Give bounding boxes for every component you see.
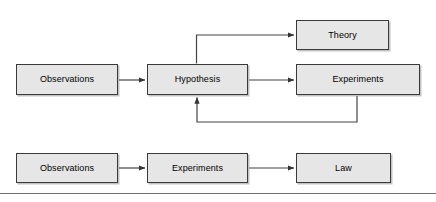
node-observations-bottom[interactable]: Observations [16, 153, 118, 183]
node-label-observations-top: Observations [40, 75, 94, 84]
node-label-hypothesis: Hypothesis [175, 75, 221, 84]
node-hypothesis[interactable]: Hypothesis [147, 64, 248, 95]
node-law[interactable]: Law [296, 153, 391, 183]
node-theory[interactable]: Theory [296, 20, 389, 50]
edge-experiments-to-hypothesis-feedback [197, 96, 357, 122]
node-label-experiments-bottom: Experiments [172, 164, 223, 173]
node-label-law: Law [335, 164, 352, 173]
node-experiments-bottom[interactable]: Experiments [147, 153, 248, 183]
node-label-theory: Theory [328, 31, 357, 40]
edge-hypothesis-to-theory [197, 35, 295, 64]
node-label-experiments-top: Experiments [332, 75, 383, 84]
footer-divider [0, 193, 436, 194]
diagram-canvas: Observations Hypothesis Theory Experimen… [0, 0, 436, 202]
node-label-observations-bottom: Observations [40, 164, 94, 173]
node-observations-top[interactable]: Observations [16, 64, 118, 95]
node-experiments-top[interactable]: Experiments [296, 64, 420, 95]
